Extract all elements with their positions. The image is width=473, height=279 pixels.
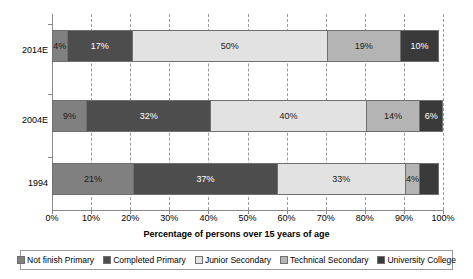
- bar-2014E: 4%17%50%19%10%: [52, 30, 443, 62]
- y-tick: [48, 94, 52, 95]
- bar-segment: 32%: [86, 100, 211, 132]
- bar-segment: 50%: [132, 30, 328, 62]
- x-axis-title: Percentage of persons over 15 years of a…: [0, 229, 473, 240]
- bar-segment: 4%: [52, 30, 68, 62]
- bar-segment-label: 4%: [406, 175, 419, 184]
- stacked-bar-chart: 4%17%50%19%10%9%32%40%14%6%21%37%33%4% 2…: [0, 0, 473, 279]
- bar-segment: 21%: [52, 163, 134, 195]
- category-label-2014E: 2014E: [0, 45, 48, 55]
- x-tick-label: 0%: [32, 213, 72, 223]
- x-tick-label: 60%: [267, 213, 307, 223]
- bar-segment-label: 17%: [91, 42, 109, 51]
- x-tick-label: 40%: [188, 213, 228, 223]
- bar-segment-label: 9%: [63, 112, 76, 121]
- x-tick-label: 70%: [306, 213, 346, 223]
- legend-item[interactable]: Not finish Primary: [17, 256, 94, 265]
- bar-segment: 14%: [366, 100, 421, 132]
- legend-swatch-icon: [195, 256, 203, 264]
- bar-segment: 40%: [210, 100, 366, 132]
- bar-segment-label: 10%: [410, 42, 428, 51]
- category-label-2004E: 2004E: [0, 115, 48, 125]
- legend-swatch-icon: [377, 256, 385, 264]
- bar-segment-label: 4%: [53, 42, 66, 51]
- legend-label: Completed Primary: [113, 256, 186, 265]
- x-tick-label: 50%: [228, 213, 268, 223]
- bar-segment: [419, 163, 439, 195]
- x-tick-label: 80%: [345, 213, 385, 223]
- y-tick: [48, 157, 52, 158]
- x-tick-label: 90%: [384, 213, 424, 223]
- legend-swatch-icon: [103, 256, 111, 264]
- bar-segment: 9%: [52, 100, 87, 132]
- bar-segment-label: 32%: [140, 112, 158, 121]
- x-tick-label: 30%: [149, 213, 189, 223]
- bar-2004E: 9%32%40%14%6%: [52, 100, 443, 132]
- x-tick-label: 100%: [423, 213, 463, 223]
- bar-segment-label: 19%: [355, 42, 373, 51]
- legend-label: Junior Secondary: [205, 256, 271, 265]
- bar-segment: 6%: [419, 100, 442, 132]
- bar-segment-label: 40%: [279, 112, 297, 121]
- bar-segment-label: 14%: [384, 112, 402, 121]
- bar-segment: 10%: [400, 30, 439, 62]
- plot-area: 4%17%50%19%10%9%32%40%14%6%21%37%33%4%: [52, 14, 443, 210]
- bar-1994: 21%37%33%4%: [52, 163, 443, 195]
- bar-segment-label: 21%: [84, 175, 102, 184]
- legend-label: Not finish Primary: [27, 256, 94, 265]
- chart-legend: Not finish PrimaryCompleted PrimaryJunio…: [20, 250, 453, 270]
- bar-segment: 4%: [405, 163, 421, 195]
- legend-item[interactable]: University College: [377, 256, 456, 265]
- gridline-100: [443, 14, 444, 210]
- y-tick: [48, 24, 52, 25]
- category-label-1994: 1994: [0, 178, 48, 188]
- legend-label: Technical Secondary: [290, 256, 368, 265]
- bar-segment-label: 33%: [332, 175, 350, 184]
- bar-segment: 17%: [67, 30, 133, 62]
- x-tick-label: 10%: [71, 213, 111, 223]
- legend-label: University College: [387, 256, 456, 265]
- legend-item[interactable]: Junior Secondary: [195, 256, 271, 265]
- bar-segment-label: 37%: [196, 175, 214, 184]
- legend-item[interactable]: Completed Primary: [103, 256, 186, 265]
- legend-swatch-icon: [280, 256, 288, 264]
- legend-swatch-icon: [17, 256, 25, 264]
- bar-segment-label: 50%: [221, 42, 239, 51]
- bar-segment-label: 6%: [425, 112, 438, 121]
- legend-item[interactable]: Technical Secondary: [280, 256, 368, 265]
- bar-segment: 37%: [133, 163, 278, 195]
- bar-segment: 19%: [327, 30, 401, 62]
- x-tick-label: 20%: [110, 213, 150, 223]
- bar-segment: 33%: [277, 163, 406, 195]
